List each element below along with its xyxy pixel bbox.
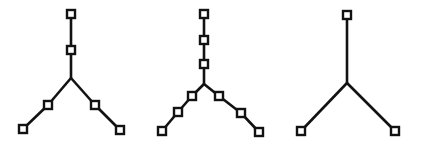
tree-node-internal bbox=[91, 101, 99, 109]
tree-node-leaf bbox=[116, 126, 124, 134]
tree-node-internal bbox=[200, 36, 208, 44]
tree-right-edges bbox=[301, 15, 395, 131]
tree-node-root-leaf bbox=[343, 11, 351, 19]
tree-node-internal bbox=[237, 109, 245, 117]
tree-node-root-leaf bbox=[67, 10, 75, 18]
tree-node-leaf bbox=[158, 127, 166, 135]
tree-node-internal bbox=[67, 46, 75, 54]
nodes-layer bbox=[19, 10, 399, 136]
tree-node-internal bbox=[200, 60, 208, 68]
tree-middle-nodes bbox=[158, 10, 263, 136]
tree-edge bbox=[347, 83, 395, 131]
tree-node-internal bbox=[174, 108, 182, 116]
tree-node-leaf bbox=[391, 127, 399, 135]
tree-node-leaf bbox=[255, 128, 263, 136]
tree-node-root-leaf bbox=[200, 10, 208, 18]
tree-edge bbox=[301, 83, 347, 131]
tree-diagram-svg bbox=[0, 0, 423, 149]
tree-node-internal bbox=[188, 92, 196, 100]
tree-left-edges bbox=[23, 14, 120, 130]
edges-layer bbox=[23, 14, 395, 132]
tree-node-internal bbox=[215, 92, 223, 100]
tree-node-leaf bbox=[19, 125, 27, 133]
tree-node-leaf bbox=[297, 127, 305, 135]
figure-panel bbox=[0, 0, 423, 149]
tree-node-internal bbox=[44, 101, 52, 109]
